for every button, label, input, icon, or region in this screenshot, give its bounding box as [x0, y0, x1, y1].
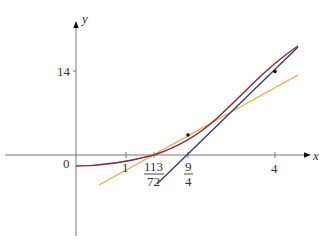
fraction-113-72: 113 72 [144, 159, 164, 189]
svg-text:113: 113 [144, 159, 163, 174]
x-tick-label-4: 4 [271, 161, 278, 176]
svg-text:9: 9 [185, 159, 192, 174]
fraction-9-4: 9 4 [184, 159, 193, 189]
y-tick-label-14: 14 [57, 64, 71, 79]
point-x4 [273, 70, 277, 74]
svg-text:4: 4 [185, 174, 192, 189]
y-axis-label: y [80, 11, 88, 26]
svg-text:72: 72 [147, 174, 160, 189]
point-x9-4 [186, 133, 190, 137]
x-tick-label-1: 1 [122, 160, 129, 175]
x-axis-label: x [312, 148, 319, 163]
tangent-line-orange [99, 75, 298, 185]
origin-label: 0 [63, 156, 70, 171]
newton-method-diagram: y x 14 0 1 113 72 9 4 4 [0, 0, 323, 244]
function-curve [76, 46, 298, 166]
